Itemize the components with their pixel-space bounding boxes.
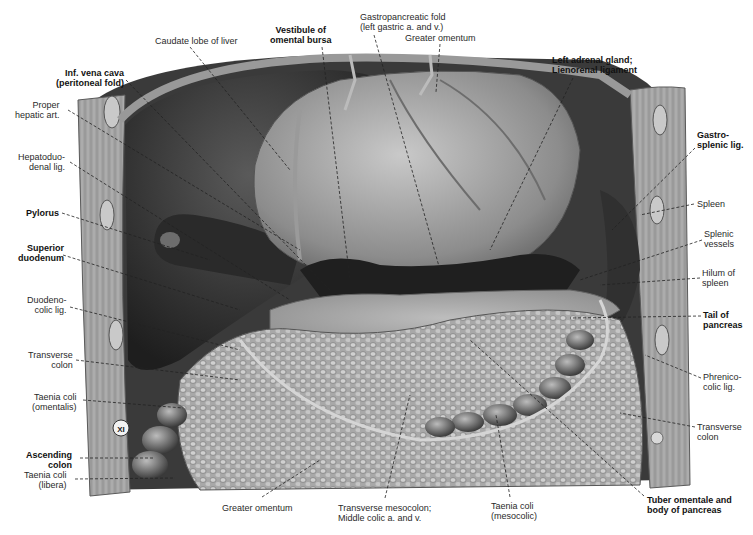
label-transverse-colon-right: Transverse colon [697,422,742,442]
label-tail-of-pancreas: Tail of pancreas [703,310,743,330]
right-wall-vessel-2 [650,196,664,224]
label-ascending-colon: Ascending colon [26,450,72,470]
label-proper-hepatic-art: Proper hepatic art. [15,100,60,120]
label-greater-omentum-top: Greater omentum [405,33,476,43]
label-greater-omentum-bottom: Greater omentum [222,503,293,513]
label-phrenicocolic-lig: Phrenico- colic lig. [703,372,742,392]
label-spleen: Spleen [697,199,725,209]
vertebra-xi-label: XI [117,425,125,434]
right-wall-vessel-4 [651,432,663,444]
label-transverse-colon-left: Transverse colon [28,350,73,370]
label-gastropancreatic-fold: Gastropancreatic fold (left gastric a. a… [360,12,446,32]
label-superior-duodenum: Superior duodenum [18,243,64,263]
right-wall-vessel-3 [655,325,669,355]
pylorus-highlight [160,232,180,248]
stomach [254,71,580,281]
label-inf-vena-cava: Inf. vena cava (peritoneal fold) [56,68,124,88]
left-wall-vessel-1 [104,96,120,128]
label-taenia-coli-omentalis: Taenia coli (omentalis) [32,392,77,412]
label-duodenocolic-lig: Duodeno- colic lig. [27,295,67,315]
label-transverse-mesocolon: Transverse mesocolon; Middle colic a. an… [338,503,431,523]
label-caudate-lobe: Caudate lobe of liver [155,36,238,46]
label-taenia-coli-mesocolic: Taenia coli (mesocolic) [491,501,537,521]
left-wall-vessel-3 [109,320,123,350]
label-gastrosplenic-lig: Gastro- splenic lig. [697,130,744,150]
label-taenia-coli-libera: Taenia coli (libera) [24,470,67,490]
label-hilum-of-spleen: Hilum of spleen [702,268,735,288]
label-hepatoduodenal-lig: Hepatoduo- denal lig. [18,152,65,172]
label-tuber-omentale: Tuber omentale and body of pancreas [647,495,732,515]
label-splenic-vessels: Splenic vessels [704,229,734,249]
label-left-adrenal: Left adrenal gland; Lienorenal ligament [552,55,637,75]
label-vestibule-omental-bursa: Vestibule of omental bursa [270,25,332,45]
right-wall-vessel-1 [653,105,667,135]
label-pylorus: Pylorus [26,208,59,218]
